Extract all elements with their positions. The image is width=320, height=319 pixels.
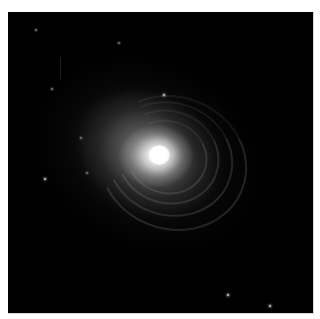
star — [51, 88, 53, 90]
galaxy-core — [148, 145, 170, 165]
image-artifact-streak — [60, 57, 61, 79]
star — [35, 29, 37, 31]
star — [86, 172, 88, 174]
star — [118, 42, 120, 44]
star — [44, 178, 46, 180]
star — [80, 137, 82, 139]
star — [269, 305, 271, 307]
star — [163, 94, 165, 96]
galaxy-image — [8, 12, 314, 314]
star — [227, 294, 229, 296]
